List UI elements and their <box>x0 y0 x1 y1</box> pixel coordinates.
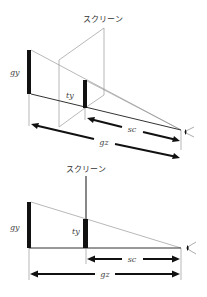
screen-plane <box>59 28 104 127</box>
sc-label: sc <box>128 125 137 134</box>
sight-lines <box>31 50 181 130</box>
projection-diagrams: スクリーン gy ty <box>0 0 207 297</box>
screen-label-side: スクリーン <box>66 165 106 174</box>
sight-line <box>31 202 181 248</box>
gz-label: gz <box>99 138 109 147</box>
sc-dimension-arrow-side: sc <box>87 255 180 264</box>
gz-label-side: gz <box>100 270 110 279</box>
gz-dimension-arrow: gz <box>31 123 180 159</box>
gy-label-side: gy <box>10 223 20 232</box>
ty-label: ty <box>66 91 74 100</box>
object-bar-gy <box>27 50 31 94</box>
perspective-diagram: スクリーン gy ty <box>10 15 194 159</box>
ground-lines <box>31 94 181 130</box>
object-bar-gy-side <box>27 202 31 248</box>
ty-label-side: ty <box>72 227 80 236</box>
side-view-diagram: スクリーン gy ty sc <box>10 165 196 280</box>
projected-bar-ty-side <box>83 219 88 248</box>
screen-label: スクリーン <box>83 15 123 24</box>
gz-dimension-arrow-side: gz <box>30 270 180 279</box>
gy-label: gy <box>10 68 20 77</box>
sc-label-side: sc <box>128 255 137 264</box>
eye-icon <box>184 127 194 137</box>
eye-icon <box>186 242 196 254</box>
projected-bar-ty <box>83 80 87 108</box>
